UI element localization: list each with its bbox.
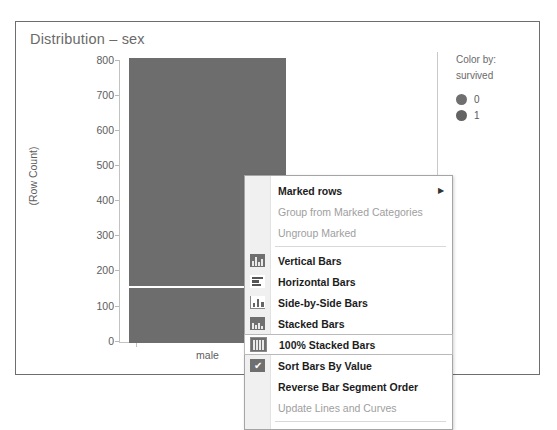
- vertical-bars-icon: [250, 254, 265, 267]
- y-tick-label: 400: [74, 194, 114, 206]
- x-tick-mark: [136, 343, 137, 347]
- menu-separator: [275, 246, 446, 247]
- legend-item[interactable]: 1: [456, 107, 538, 123]
- menu-item-icon-slot: [245, 397, 270, 418]
- menu-item-label: Horizontal Bars: [270, 276, 356, 288]
- menu-bottom-padding: [245, 425, 452, 429]
- visualization-panel: Distribution – sex (Row Count) 800 700 6…: [15, 21, 540, 375]
- legend-items: 0 1: [456, 91, 538, 123]
- stacked-bars-icon: [250, 317, 265, 330]
- page-title: Distribution – sex: [30, 31, 145, 47]
- menu-item-label: 100% Stacked Bars: [271, 339, 375, 351]
- menu-item-label: Side-by-Side Bars: [270, 297, 368, 309]
- legend-swatch-icon: [456, 94, 467, 105]
- menu-item-icon-slot: [245, 313, 270, 334]
- menu-item-icon-slot: [246, 334, 271, 355]
- menu-item-icon-slot: [245, 292, 270, 313]
- percent-stacked-bars-icon: [251, 338, 266, 351]
- y-tick-label: 500: [74, 159, 114, 171]
- menu-item-icon-slot: [245, 180, 270, 201]
- menu-item-icon-slot: [245, 201, 270, 222]
- chevron-right-icon: ▶: [438, 187, 444, 195]
- menu-item-label: Stacked Bars: [270, 318, 345, 330]
- legend: Color by: survived 0 1: [456, 52, 538, 123]
- menu-item-icon-slot: [245, 271, 270, 292]
- y-tick-label: 100: [74, 300, 114, 312]
- menu-item-label: Vertical Bars: [270, 255, 342, 267]
- menu-item-100-percent-stacked-bars[interactable]: 100% Stacked Bars: [244, 334, 453, 355]
- legend-title-column: survived: [456, 68, 538, 84]
- y-axis-tick-labels: 800 700 600 500 400 300 200 100 0: [68, 52, 114, 375]
- menu-item-label: Marked rows: [270, 185, 342, 197]
- checkmark-icon: ✔: [250, 359, 265, 372]
- menu-item-label: Sort Bars By Value: [270, 360, 372, 372]
- context-menu[interactable]: Marked rows ▶ Group from Marked Categori…: [244, 175, 453, 430]
- menu-item-stacked-bars[interactable]: Stacked Bars: [245, 313, 452, 334]
- y-axis-line: [119, 60, 120, 343]
- menu-item-reverse-bar-segment-order[interactable]: Reverse Bar Segment Order: [245, 376, 452, 397]
- legend-swatch-icon: [456, 110, 467, 121]
- menu-item-label: Update Lines and Curves: [270, 402, 397, 414]
- y-axis-title: (Row Count): [27, 131, 39, 221]
- menu-item-horizontal-bars[interactable]: Horizontal Bars: [245, 271, 452, 292]
- y-tick-label: 0: [74, 335, 114, 347]
- menu-item-label: Group from Marked Categories: [270, 206, 423, 218]
- menu-item-marked-rows[interactable]: Marked rows ▶: [245, 180, 452, 201]
- menu-item-label: Ungroup Marked: [270, 227, 356, 239]
- menu-item-ungroup-marked[interactable]: Ungroup Marked: [245, 222, 452, 243]
- legend-item[interactable]: 0: [456, 91, 538, 107]
- side-by-side-bars-icon: [250, 296, 265, 309]
- menu-separator: [275, 421, 446, 422]
- menu-item-icon-slot: [245, 222, 270, 243]
- y-tick-label: 800: [74, 54, 114, 66]
- menu-item-vertical-bars[interactable]: Vertical Bars: [245, 250, 452, 271]
- legend-item-label: 0: [474, 94, 480, 105]
- menu-item-icon-slot: [245, 250, 270, 271]
- legend-item-label: 1: [474, 110, 480, 121]
- menu-item-sort-bars-by-value[interactable]: ✔ Sort Bars By Value: [245, 355, 452, 376]
- y-tick-label: 700: [74, 89, 114, 101]
- menu-item-label: Reverse Bar Segment Order: [270, 381, 418, 393]
- y-tick-label: 300: [74, 229, 114, 241]
- menu-item-group-from-marked-categories[interactable]: Group from Marked Categories: [245, 201, 452, 222]
- menu-item-side-by-side-bars[interactable]: Side-by-Side Bars: [245, 292, 452, 313]
- menu-item-icon-slot: [245, 376, 270, 397]
- menu-item-icon-slot: ✔: [245, 355, 270, 376]
- y-tick-label: 200: [74, 264, 114, 276]
- menu-item-update-lines-and-curves[interactable]: Update Lines and Curves: [245, 397, 452, 418]
- legend-title-colorby: Color by:: [456, 52, 538, 68]
- y-tick-label: 600: [74, 124, 114, 136]
- horizontal-bars-icon: [250, 275, 265, 288]
